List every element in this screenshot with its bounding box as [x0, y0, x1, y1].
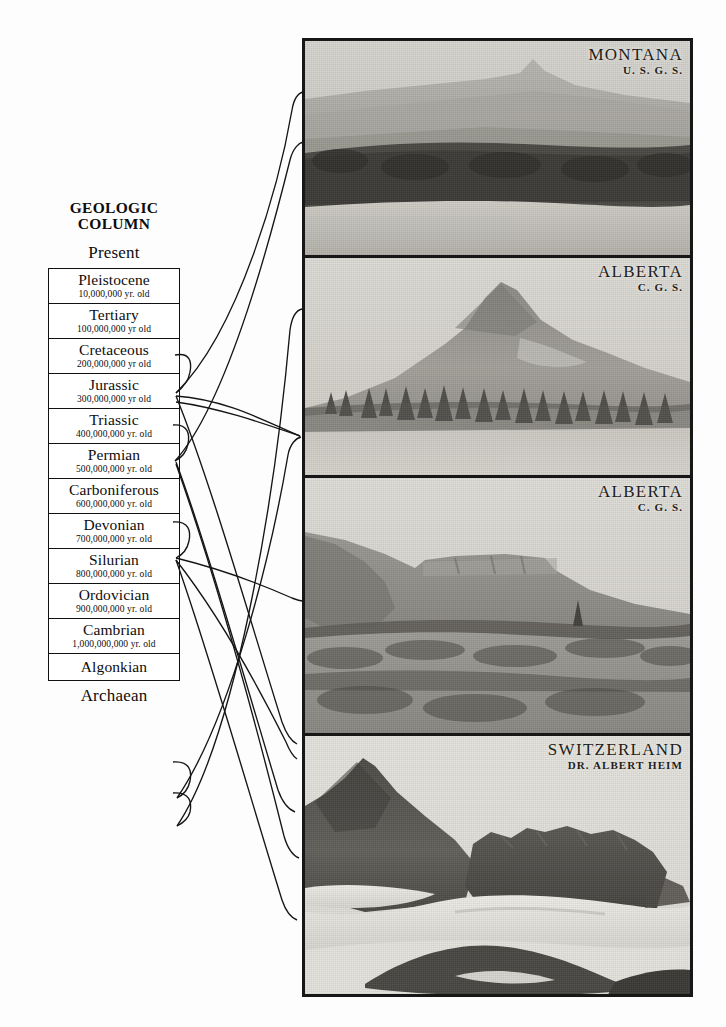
connector-algonkian-to-alberta-peak: [177, 309, 302, 826]
photo-caption: MONTANA U. S. G. S.: [588, 45, 683, 77]
stratum-row[interactable]: Cretaceous 200,000,000 yr old: [49, 339, 179, 374]
connector-cretaceous-horizontal: [176, 402, 300, 436]
stratum-row[interactable]: Pleistocene 10,000,000 yr. old: [49, 269, 179, 304]
stratum-row[interactable]: Permian 500,000,000 yr. old: [49, 444, 179, 479]
stratum-era: Permian: [49, 446, 179, 463]
caption-place: SWITZERLAND: [548, 740, 683, 759]
alberta-escarpment-scene: [305, 478, 690, 733]
archaean-label: Archaean: [44, 685, 184, 707]
connector-cretaceous-to-montana: [176, 92, 303, 393]
photo-caption: ALBERTA C. G. S.: [598, 482, 683, 514]
stratum-era: Carboniferous: [49, 481, 179, 498]
connector-permian-to-switzerland: [176, 560, 297, 759]
stratum-era: Cambrian: [49, 621, 179, 638]
figure-page: GEOLOGIC COLUMN Present Pleistocene 10,0…: [0, 0, 726, 1027]
photo-alberta-escarpment[interactable]: ALBERTA C. G. S.: [305, 478, 690, 736]
connector-cretaceous-to-alberta-peak: [176, 396, 300, 436]
caption-place: ALBERTA: [598, 262, 683, 281]
connector-bracket-algonkian: [173, 793, 191, 826]
photo-montana[interactable]: MONTANA U. S. G. S.: [305, 41, 690, 258]
stratum-age: 100,000,000 yr old: [49, 323, 179, 335]
caption-credit: DR. ALBERT HEIM: [548, 759, 683, 772]
caption-place: MONTANA: [588, 45, 683, 64]
stratum-age: 300,000,000 yr old: [49, 393, 179, 405]
photo-caption: ALBERTA C. G. S.: [598, 262, 683, 294]
caption-credit: C. G. S.: [598, 281, 683, 294]
stratum-age: 10,000,000 yr. old: [49, 288, 179, 300]
stratum-row[interactable]: Cambrian 1,000,000,000 yr. old: [49, 619, 179, 654]
stratum-age: 400,000,000 yr. old: [49, 428, 179, 440]
connector-upper-to-switzerland-b: [176, 462, 295, 812]
stratum-row[interactable]: Tertiary 100,000,000 yr old: [49, 304, 179, 339]
connector-bracket-cambrian: [173, 762, 191, 798]
photo-switzerland[interactable]: SWITZERLAND DR. ALBERT HEIM: [305, 736, 690, 997]
stratum-era: Ordovician: [49, 586, 179, 603]
title-line-1: GEOLOGIC: [44, 200, 184, 216]
stratum-age: 1,000,000,000 yr. old: [49, 638, 179, 650]
photo-panel: MONTANA U. S. G. S.: [302, 38, 693, 997]
connector-upper-to-switzerland-a: [176, 396, 297, 744]
stratum-row[interactable]: Algonkian: [49, 654, 179, 680]
photo-alberta-peak[interactable]: ALBERTA C. G. S.: [305, 258, 690, 478]
title-line-2: COLUMN: [44, 216, 184, 232]
stratum-era: Cretaceous: [49, 341, 179, 358]
connector-jurassic-to-montana: [175, 142, 303, 461]
stratum-row[interactable]: Devonian 700,000,000 yr. old: [49, 514, 179, 549]
present-label: Present: [44, 242, 184, 264]
stratum-age: 900,000,000 yr. old: [49, 603, 179, 615]
stratum-era: Devonian: [49, 516, 179, 533]
stratum-age: 700,000,000 yr. old: [49, 533, 179, 545]
caption-credit: U. S. G. S.: [588, 64, 683, 77]
connector-permian-to-switzerland-lower: [176, 560, 297, 920]
stratum-age: 200,000,000 yr old: [49, 358, 179, 370]
stratum-age: 600,000,000 yr. old: [49, 498, 179, 510]
stratum-row[interactable]: Triassic 400,000,000 yr. old: [49, 409, 179, 444]
caption-credit: C. G. S.: [598, 501, 683, 514]
strata-stack: Pleistocene 10,000,000 yr. old Tertiary …: [48, 268, 180, 681]
page-title: GEOLOGIC COLUMN: [44, 200, 184, 232]
connector-upper-to-switzerland-c: [176, 464, 299, 858]
stratum-era: Jurassic: [49, 376, 179, 393]
stratum-era: Triassic: [49, 411, 179, 428]
switzerland-scene: [305, 736, 690, 997]
stratum-era: Silurian: [49, 551, 179, 568]
stratum-age: 500,000,000 yr. old: [49, 463, 179, 475]
stratum-era: Pleistocene: [49, 271, 179, 288]
stratum-age: 800,000,000 yr. old: [49, 568, 179, 580]
stratum-row[interactable]: Ordovician 900,000,000 yr. old: [49, 584, 179, 619]
geologic-column: GEOLOGIC COLUMN Present Pleistocene 10,0…: [44, 200, 184, 707]
photo-caption: SWITZERLAND DR. ALBERT HEIM: [548, 740, 683, 772]
stratum-era: Tertiary: [49, 306, 179, 323]
stratum-row[interactable]: Carboniferous 600,000,000 yr. old: [49, 479, 179, 514]
connector-permian-to-alberta-escarpment: [176, 558, 303, 601]
connector-cambrian-to-alberta: [177, 437, 301, 798]
stratum-era: Algonkian: [49, 658, 179, 675]
stratum-row[interactable]: Jurassic 300,000,000 yr old: [49, 374, 179, 409]
stratum-row[interactable]: Silurian 800,000,000 yr. old: [49, 549, 179, 584]
caption-place: ALBERTA: [598, 482, 683, 501]
